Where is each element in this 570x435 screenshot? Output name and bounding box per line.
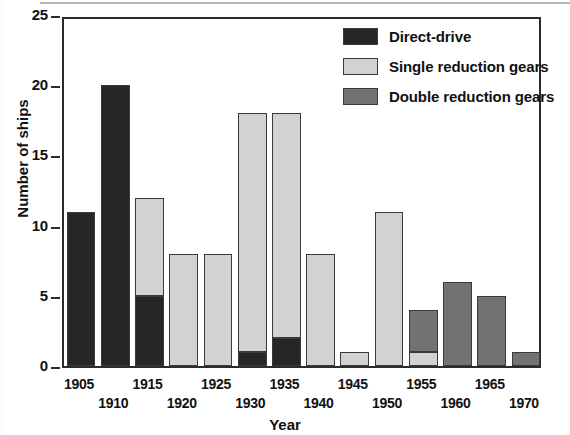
legend-swatch (343, 58, 378, 75)
bar-segment (409, 310, 438, 352)
y-axis-tick-label: 25 (4, 6, 48, 23)
x-axis-tick-label: 1940 (293, 395, 345, 411)
bar-segment (409, 352, 438, 366)
bar-segment (443, 282, 472, 366)
bar-segment (101, 85, 130, 366)
x-axis-title: Year (0, 416, 570, 433)
x-axis-tick-label: 1930 (224, 395, 276, 411)
bar-segment (272, 338, 301, 366)
y-axis-tick-label: 10 (4, 217, 48, 234)
bar-segment (375, 212, 404, 366)
legend-swatch (343, 28, 378, 45)
y-axis-tick-label: 5 (4, 287, 48, 304)
bar-segment (135, 198, 164, 296)
y-axis-tick-mark (51, 297, 60, 299)
x-axis-tick-label: 1960 (429, 395, 481, 411)
x-axis-tick-label: 1905 (53, 376, 105, 392)
bar-1930 (238, 15, 267, 366)
y-axis-tick-mark (51, 86, 60, 88)
bar-segment (272, 113, 301, 338)
legend-item: Direct-drive (343, 27, 554, 50)
bar-1905 (67, 15, 96, 366)
bar-segment (477, 296, 506, 366)
x-axis-tick-label: 1910 (87, 395, 139, 411)
bar-segment (67, 212, 96, 366)
bar-1910 (101, 15, 130, 366)
legend-item: Single reduction gears (343, 57, 554, 80)
bar-1920 (169, 15, 198, 366)
legend-item: Double reduction gears (343, 87, 554, 110)
y-axis-tick-mark (51, 156, 60, 158)
legend-label: Direct-drive (389, 28, 471, 45)
bar-segment (512, 352, 541, 366)
bar-segment (135, 296, 164, 366)
bar-segment (238, 352, 267, 366)
y-axis-tick-mark (51, 16, 60, 18)
bar-segment (306, 254, 335, 366)
y-axis-tick-label: 15 (4, 146, 48, 163)
bar-segment (238, 113, 267, 352)
bar-1935 (272, 15, 301, 366)
x-axis-tick-label: 1950 (361, 395, 413, 411)
bar-1940 (306, 15, 335, 366)
page-top-rule (40, 2, 570, 4)
x-axis-tick-label: 1920 (156, 395, 208, 411)
y-axis-tick-mark (51, 227, 60, 229)
bar-segment (204, 254, 233, 366)
x-axis-tick-label: 1965 (464, 376, 516, 392)
bar-1925 (204, 15, 233, 366)
x-axis: Year 19051910191519201925193019351940194… (0, 368, 570, 435)
legend-label: Single reduction gears (389, 58, 549, 75)
x-axis-tick-label: 1945 (327, 376, 379, 392)
x-axis-tick-label: 1935 (258, 376, 310, 392)
x-axis-tick-label: 1925 (190, 376, 242, 392)
y-axis-tick-label: 20 (4, 76, 48, 93)
bar-1915 (135, 15, 164, 366)
legend-label: Double reduction gears (389, 88, 554, 105)
x-axis-tick-label: 1970 (498, 395, 550, 411)
x-axis-tick-label: 1915 (122, 376, 174, 392)
legend: Direct-driveSingle reduction gearsDouble… (343, 27, 554, 117)
bar-segment (340, 352, 369, 366)
x-axis-tick-label: 1955 (395, 376, 447, 392)
legend-swatch (343, 88, 378, 105)
figure: Number of ships 0510152025 Year 19051910… (0, 0, 570, 435)
bar-segment (169, 254, 198, 366)
